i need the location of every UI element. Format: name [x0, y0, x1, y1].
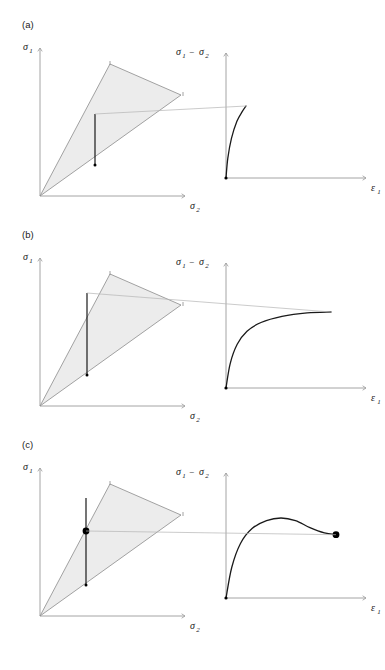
deviator-label-second-a: σ	[199, 46, 205, 57]
stress-strain-curve-a	[226, 106, 246, 178]
strain-axis-label-c: ε	[371, 602, 375, 613]
sigma1-axis-label-c: σ	[23, 461, 29, 472]
sigma2-axis-label-a: σ	[190, 200, 196, 211]
panel-c: (c)σ1σ2σ1−σ2ε1	[22, 439, 381, 634]
left-plot-c: σ1σ2	[23, 461, 200, 634]
sigma2-axis-label-a-subscript: 2	[196, 206, 200, 214]
sigma1-axis-label-c-subscript: 1	[29, 467, 33, 475]
curve-origin-marker-b	[224, 386, 227, 389]
deviator-label-minus-c: −	[189, 467, 194, 477]
deviator-label-second-c: σ	[199, 466, 205, 477]
strain-axis-label-a-subscript: 1	[377, 188, 381, 196]
strain-axis-label-c-subscript: 1	[377, 608, 381, 616]
deviator-label-first-b-subscript: 1	[182, 262, 186, 270]
strain-axis-label-b-subscript: 1	[377, 398, 381, 406]
stress-strain-curve-b	[226, 312, 331, 388]
deviator-label-first-c: σ	[176, 466, 182, 477]
right-plot-b: σ1−σ2ε1	[176, 256, 381, 406]
curve-origin-marker-c	[224, 596, 227, 599]
sigma2-axis-label-b-subscript: 2	[196, 416, 200, 424]
sigma2-axis-label-b: σ	[190, 410, 196, 421]
deviator-label-second-b: σ	[199, 256, 205, 267]
admissible-region-a	[40, 64, 181, 196]
panel-a: (a)σ1σ2σ1−σ2ε1	[22, 19, 381, 214]
figure-svg: (a)σ1σ2σ1−σ2ε1(b)σ1σ2σ1−σ2ε1(c)σ1σ2σ1−σ2…	[0, 0, 385, 670]
sigma1-axis-label-a: σ	[23, 41, 29, 52]
right-plot-a: σ1−σ2ε1	[176, 46, 381, 196]
deviator-label-first-b: σ	[176, 256, 182, 267]
stress-strain-curve-c	[226, 518, 336, 598]
stress-path-start-marker-c	[85, 584, 88, 587]
curve-origin-marker-a	[224, 176, 227, 179]
strain-axis-label-a: ε	[371, 182, 375, 193]
deviator-label-first-a-subscript: 1	[182, 52, 186, 60]
right-plot-c: σ1−σ2ε1	[176, 466, 381, 616]
sigma1-axis-label-a-subscript: 1	[29, 47, 33, 55]
sigma2-axis-label-c-subscript: 2	[196, 626, 200, 634]
deviator-label-second-a-subscript: 2	[205, 52, 209, 60]
deviator-label-minus-a: −	[189, 47, 194, 57]
deviator-label-first-a: σ	[176, 46, 182, 57]
figure-container: (a)σ1σ2σ1−σ2ε1(b)σ1σ2σ1−σ2ε1(c)σ1σ2σ1−σ2…	[0, 0, 385, 670]
deviator-label-first-c-subscript: 1	[182, 472, 186, 480]
panel-tag-a: (a)	[22, 19, 34, 30]
admissible-region-c	[40, 484, 181, 616]
deviator-label-minus-b: −	[189, 257, 194, 267]
sigma2-axis-label-c: σ	[190, 620, 196, 631]
deviator-label-second-c-subscript: 2	[205, 472, 209, 480]
panel-tag-b: (b)	[22, 229, 34, 240]
admissible-region-b	[40, 274, 181, 406]
sigma1-axis-label-b-subscript: 1	[29, 257, 33, 265]
panel-tag-c: (c)	[22, 439, 33, 450]
stress-path-start-marker-a	[94, 164, 97, 167]
panel-b: (b)σ1σ2σ1−σ2ε1	[22, 229, 381, 424]
deviator-label-second-b-subscript: 2	[205, 262, 209, 270]
stress-path-start-marker-b	[86, 374, 89, 377]
left-plot-b: σ1σ2	[23, 251, 200, 424]
sigma1-axis-label-b: σ	[23, 251, 29, 262]
left-plot-a: σ1σ2	[23, 41, 200, 214]
strain-axis-label-b: ε	[371, 392, 375, 403]
